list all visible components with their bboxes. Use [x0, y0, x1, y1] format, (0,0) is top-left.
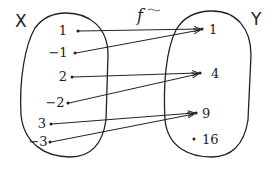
element-x-3: 3	[38, 116, 46, 131]
point-icon	[198, 71, 201, 74]
function-label: f	[136, 6, 146, 25]
element-x-neg3: −3	[28, 134, 47, 149]
element-y-1: 1	[209, 22, 217, 37]
set-y-label: Y	[250, 9, 262, 29]
arrow-icon	[69, 74, 198, 103]
function-label-tilde	[148, 9, 160, 11]
mapping-arrows	[51, 29, 200, 142]
element-x-neg2: −2	[45, 95, 64, 110]
arrow-icon	[79, 29, 200, 31]
codomain-elements: 1 4 9 16	[193, 22, 220, 147]
element-y-16: 16	[202, 132, 219, 147]
arrow-icon	[76, 30, 200, 53]
element-x-1: 1	[59, 23, 67, 38]
element-x-neg1: −1	[48, 45, 67, 60]
point-icon	[200, 27, 203, 30]
set-x-label: X	[15, 11, 27, 31]
point-icon	[193, 138, 196, 141]
arrow-icon	[73, 73, 198, 77]
element-x-2: 2	[59, 69, 67, 84]
element-y-9: 9	[202, 106, 210, 121]
domain-elements: 1 −1 2 −2 3 −3	[28, 23, 79, 149]
point-icon	[194, 111, 197, 114]
function-mapping-diagram: X Y f 1 −1 2 −2 3 −3 1 4 9 16	[0, 0, 280, 169]
element-y-4: 4	[211, 66, 219, 81]
